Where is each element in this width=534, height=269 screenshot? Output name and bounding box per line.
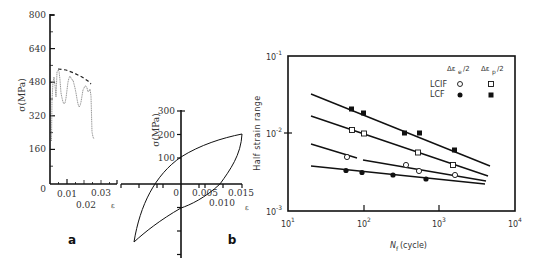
svg-text:LCIF: LCIF	[430, 80, 447, 89]
svg-text:10: 10	[432, 220, 442, 229]
svg-text:10: 10	[281, 220, 291, 229]
svg-text:10: 10	[508, 220, 518, 229]
svg-text:3: 3	[442, 216, 446, 223]
svg-text:2: 2	[367, 216, 371, 223]
svg-text:320: 320	[29, 111, 46, 121]
svg-text:1: 1	[291, 216, 295, 223]
panel-b-y-label: σ(MPa)	[151, 113, 161, 146]
svg-text:0.01: 0.01	[57, 189, 77, 199]
svg-text:0.03: 0.03	[91, 188, 111, 198]
svg-text:0: 0	[40, 184, 46, 194]
panel-a-x-label: ε	[111, 202, 115, 210]
svg-text:/2: /2	[497, 65, 504, 73]
panel-c-legend: Δε e /2 Δε p /2 LCIF LCF	[430, 65, 504, 99]
svg-text:f: f	[396, 245, 399, 252]
svg-text:-3: -3	[276, 204, 282, 211]
svg-text:10: 10	[266, 208, 276, 217]
legend-filled-square-icon	[489, 93, 494, 98]
svg-text:0.02: 0.02	[76, 200, 96, 210]
svg-text:0: 0	[173, 188, 179, 198]
svg-text:800: 800	[29, 10, 46, 20]
panel-c-x-label: N f (cycle)	[390, 241, 427, 252]
fit-line-lcif-plastic	[311, 116, 488, 176]
panel-a-y-tick-labels: 800 640 480 320 160 0	[29, 10, 46, 194]
svg-text:LCF: LCF	[430, 90, 445, 99]
figure: 800 640 480 320 160 0 σ(MPa) 0.01 0.03 0…	[0, 0, 534, 269]
panel-a-x-tick-labels: 0.01 0.03 0.02	[57, 188, 111, 210]
panel-b-label: b	[228, 233, 237, 247]
svg-text:160: 160	[29, 144, 46, 154]
panel-b-x-tick-labels: 0 0.005 0.015 0.010	[173, 188, 254, 208]
fit-line-lcf-plastic	[311, 94, 490, 166]
legend-filled-circle-icon	[458, 93, 463, 98]
svg-text:0.010: 0.010	[209, 198, 235, 208]
svg-text:480: 480	[29, 77, 46, 87]
svg-text:100: 100	[158, 153, 175, 163]
svg-text:10: 10	[266, 53, 276, 62]
svg-text:640: 640	[29, 44, 46, 54]
panel-b-hysteresis-loop	[134, 134, 242, 242]
panel-b-x-label: ε	[245, 204, 249, 212]
panel-c-fit-lines	[311, 94, 490, 184]
svg-text:10: 10	[357, 220, 367, 229]
panel-c-y-tick-labels: 10 -1 10 -2 10 -3	[266, 49, 282, 217]
legend-open-circle-icon	[458, 82, 463, 87]
series-lcf-elastic	[343, 168, 428, 182]
panel-a: 800 640 480 320 160 0 σ(MPa) 0.01 0.03 0…	[17, 10, 117, 247]
legend-open-square-icon	[489, 82, 494, 87]
svg-text:-1: -1	[276, 49, 282, 56]
svg-text:Δε: Δε	[481, 65, 490, 73]
svg-text:e: e	[458, 68, 462, 75]
panel-c-y-label: Half strain range	[253, 95, 262, 171]
svg-text:0.015: 0.015	[228, 188, 254, 198]
svg-text:4: 4	[518, 216, 522, 223]
svg-text:/2: /2	[463, 65, 470, 73]
panel-c: 10 -1 10 -2 10 -3 10 1 10 2 10 3 10 4 Ha…	[253, 49, 522, 252]
panel-a-y-label: σ(MPa)	[17, 78, 27, 111]
panel-c-x-tick-labels: 10 1 10 2 10 3 10 4	[281, 216, 522, 229]
fit-line-lcif-elastic-seg1	[311, 144, 357, 158]
fit-line-lcf-elastic	[311, 166, 485, 184]
svg-text:10: 10	[266, 130, 276, 139]
svg-text:p: p	[492, 68, 496, 76]
panel-a-label: a	[68, 233, 76, 247]
svg-text:-2: -2	[276, 126, 282, 133]
svg-text:(cycle): (cycle)	[400, 241, 427, 250]
panel-a-envelope	[58, 69, 91, 84]
panel-c-frame	[288, 56, 515, 211]
panel-b: 300 200 100 σ(MPa) 0 0.005 0.015 0.010 ε…	[121, 106, 254, 258]
svg-text:Δε: Δε	[447, 65, 456, 73]
